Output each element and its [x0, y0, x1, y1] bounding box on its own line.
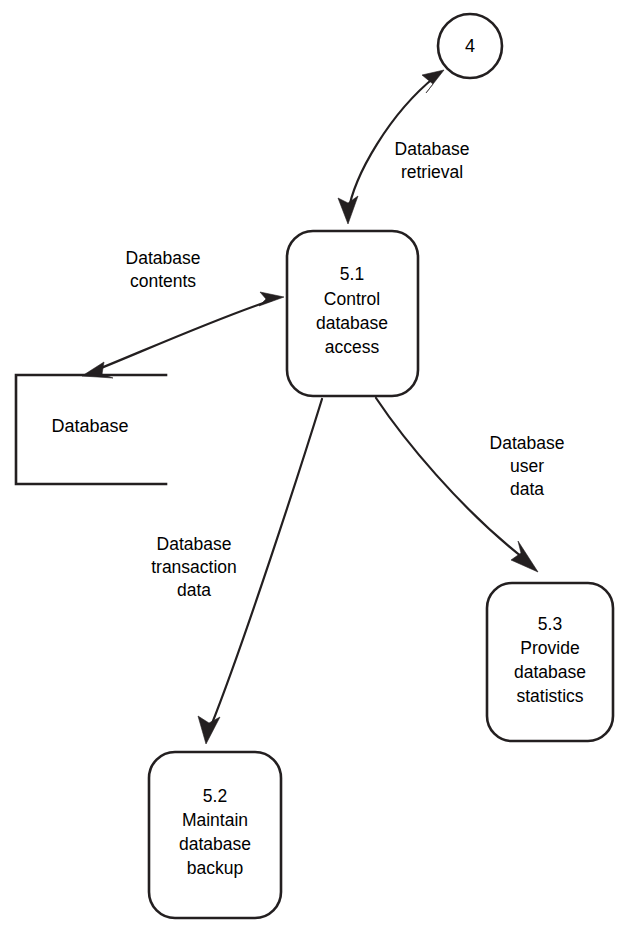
flow-database-transaction-data-label-line2: transaction — [151, 557, 237, 577]
process-5-1-number: 5.1 — [340, 264, 364, 284]
flow-database-user-data-label-line3: data — [510, 479, 544, 499]
flow-database-retrieval-arrowhead-up — [422, 70, 444, 93]
process-5-3-line3: statistics — [516, 686, 583, 706]
flow-database-contents-arrowhead-right — [259, 292, 284, 306]
process-5-1[interactable]: 5.1 Control database access — [287, 231, 418, 396]
process-5-1-line2: database — [316, 313, 388, 333]
flow-database-transaction-data-arrowhead — [198, 716, 220, 744]
flow-database-user-data-line — [376, 398, 522, 557]
data-store-database[interactable]: Database — [16, 375, 166, 484]
flow-database-user-data[interactable]: Database user data — [376, 398, 564, 572]
process-5-1-line3: access — [325, 337, 380, 357]
process-5-2-line2: database — [179, 834, 251, 854]
process-5-1-line1: Control — [324, 289, 380, 309]
flow-database-user-data-label-line2: user — [510, 456, 544, 476]
flow-database-user-data-arrowhead — [511, 541, 538, 572]
process-5-3-number: 5.3 — [538, 614, 562, 634]
process-5-3-line2: database — [514, 662, 586, 682]
external-entity-4[interactable]: 4 — [438, 14, 502, 78]
process-5-2-line1: Maintain — [182, 810, 248, 830]
flow-database-transaction-data[interactable]: Database transaction data — [151, 399, 322, 744]
flow-database-contents[interactable]: Database contents — [82, 248, 284, 378]
flow-database-retrieval-label-line2: retrieval — [401, 162, 463, 182]
process-5-2-number: 5.2 — [203, 786, 227, 806]
process-5-2[interactable]: 5.2 Maintain database backup — [149, 752, 281, 918]
dfd-svg-surface: 4 Database retrieval 5.1 Control databas… — [0, 0, 621, 935]
flow-database-retrieval-arrowhead-down — [338, 196, 358, 224]
flow-database-contents-label-line1: Database — [126, 248, 201, 268]
process-5-3[interactable]: 5.3 Provide database statistics — [487, 583, 613, 741]
data-store-database-label: Database — [51, 416, 128, 436]
flow-database-user-data-label-line1: Database — [490, 433, 565, 453]
flow-database-contents-label-line2: contents — [130, 271, 196, 291]
flow-database-transaction-data-label-line3: data — [177, 580, 211, 600]
external-entity-4-label: 4 — [465, 36, 475, 56]
process-5-3-line1: Provide — [520, 638, 579, 658]
flow-database-transaction-data-label-line1: Database — [157, 534, 232, 554]
process-5-2-line3: backup — [187, 858, 243, 878]
dfd-diagram-canvas: 4 Database retrieval 5.1 Control databas… — [0, 0, 621, 935]
flow-database-retrieval-label-line1: Database — [395, 139, 470, 159]
flow-database-retrieval[interactable]: Database retrieval — [338, 70, 469, 224]
flow-database-contents-line — [91, 300, 272, 372]
